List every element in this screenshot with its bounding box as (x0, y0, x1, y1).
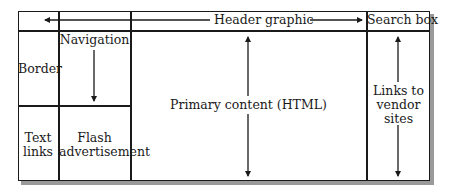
header-graphic-label: Header graphic (210, 13, 310, 27)
navigation-label: Navigation (59, 33, 130, 47)
text-links-label: Text links (18, 131, 58, 159)
primary-content-label: Primary content (HTML) (131, 98, 366, 112)
left-column-divider (18, 105, 131, 107)
text-links-line1: Text (18, 131, 58, 145)
vendor-links-label: Links to vendor sites (367, 84, 430, 126)
flash-ad-line1: Flash (59, 131, 130, 145)
flash-ad-line2: advertisement (59, 145, 130, 159)
vendor-links-line1: Links to (367, 84, 430, 98)
vendor-links-line3: sites (367, 112, 430, 126)
search-box-label: Search box (367, 13, 430, 27)
border-label: Border (18, 62, 58, 76)
vendor-links-line2: vendor (367, 98, 430, 112)
flash-ad-label: Flash advertisement (59, 131, 130, 159)
text-links-line2: links (18, 145, 58, 159)
